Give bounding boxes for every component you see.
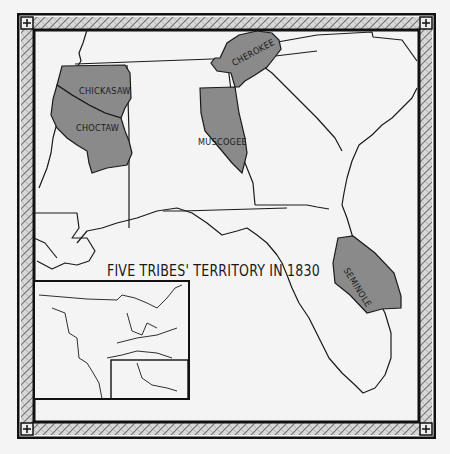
inset-map	[34, 281, 189, 399]
map-title: FIVE TRIBES' TERRITORY IN 1830	[107, 261, 320, 279]
territory-label-muscogee: MUSCOGEE	[198, 137, 247, 147]
territory-label-chickasaw: CHICKASAW	[79, 86, 131, 96]
map-canvas	[17, 13, 436, 439]
map-frame: CHICKASAW CHOCTAW CHEROKEE MUSCOGEE SEMI…	[17, 13, 436, 439]
territory-label-choctaw: CHOCTAW	[76, 123, 119, 133]
